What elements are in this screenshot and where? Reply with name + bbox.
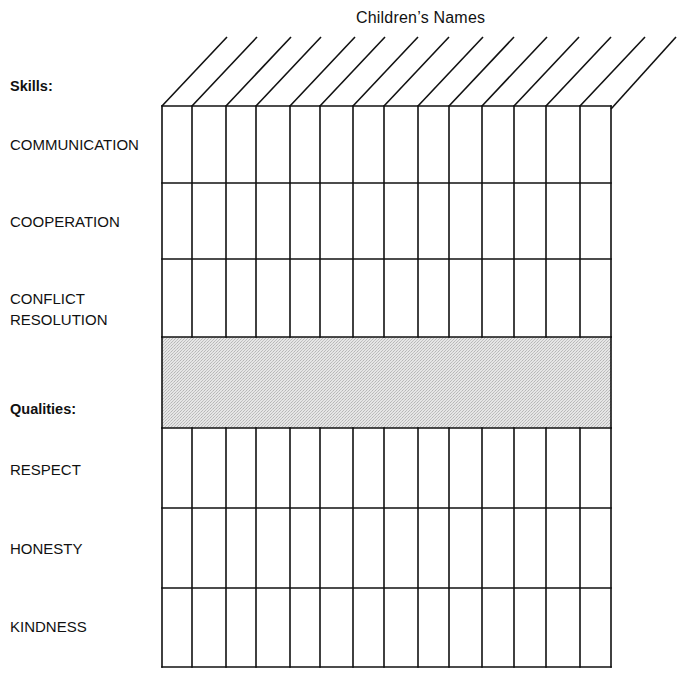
cell-honesty-child-10[interactable] (450, 509, 481, 587)
cell-kindness-child-7[interactable] (354, 589, 383, 666)
cell-communication-child-6[interactable] (321, 107, 352, 182)
cell-conflict-resolution-child-14[interactable] (581, 260, 610, 336)
cell-cooperation-child-1[interactable] (163, 184, 191, 258)
cell-cooperation-child-9[interactable] (419, 184, 448, 258)
cell-cooperation-child-6[interactable] (321, 184, 352, 258)
cell-kindness-child-12[interactable] (515, 589, 545, 666)
cell-cooperation-child-3[interactable] (227, 184, 255, 258)
cell-conflict-resolution-child-12[interactable] (515, 260, 545, 336)
cell-communication-child-11[interactable] (483, 107, 513, 182)
cell-conflict-resolution-child-10[interactable] (450, 260, 481, 336)
cell-kindness-child-2[interactable] (193, 589, 225, 666)
cell-respect-child-7[interactable] (354, 429, 383, 507)
cell-respect-child-5[interactable] (291, 429, 319, 507)
cell-cooperation-child-2[interactable] (193, 184, 225, 258)
cell-kindness-child-3[interactable] (227, 589, 255, 666)
cell-cooperation-child-8[interactable] (385, 184, 417, 258)
cell-honesty-child-12[interactable] (515, 509, 545, 587)
cell-cooperation-child-10[interactable] (450, 184, 481, 258)
cell-communication-child-1[interactable] (163, 107, 191, 182)
cell-respect-child-1[interactable] (163, 429, 191, 507)
cell-conflict-resolution-child-13[interactable] (547, 260, 579, 336)
cell-respect-child-9[interactable] (419, 429, 448, 507)
cell-conflict-resolution-child-11[interactable] (483, 260, 513, 336)
cell-honesty-child-5[interactable] (291, 509, 319, 587)
cell-respect-child-4[interactable] (257, 429, 289, 507)
cell-cooperation-child-13[interactable] (547, 184, 579, 258)
cell-honesty-child-1[interactable] (163, 509, 191, 587)
cell-communication-child-3[interactable] (227, 107, 255, 182)
cell-conflict-resolution-child-4[interactable] (257, 260, 289, 336)
cell-conflict-resolution-child-3[interactable] (227, 260, 255, 336)
cell-honesty-child-7[interactable] (354, 509, 383, 587)
cell-respect-child-14[interactable] (581, 429, 610, 507)
cell-conflict-resolution-child-7[interactable] (354, 260, 383, 336)
cell-conflict-resolution-child-2[interactable] (193, 260, 225, 336)
cell-conflict-resolution-child-8[interactable] (385, 260, 417, 336)
cell-honesty-child-2[interactable] (193, 509, 225, 587)
cell-honesty-child-9[interactable] (419, 509, 448, 587)
cell-kindness-child-8[interactable] (385, 589, 417, 666)
cell-cooperation-child-5[interactable] (291, 184, 319, 258)
cell-honesty-child-8[interactable] (385, 509, 417, 587)
cell-communication-child-12[interactable] (515, 107, 545, 182)
cell-honesty-child-6[interactable] (321, 509, 352, 587)
cell-communication-child-5[interactable] (291, 107, 319, 182)
cell-cooperation-child-4[interactable] (257, 184, 289, 258)
cell-honesty-child-3[interactable] (227, 509, 255, 587)
cell-respect-child-12[interactable] (515, 429, 545, 507)
cell-kindness-child-11[interactable] (483, 589, 513, 666)
cell-honesty-child-11[interactable] (483, 509, 513, 587)
cell-respect-child-10[interactable] (450, 429, 481, 507)
cell-conflict-resolution-child-1[interactable] (163, 260, 191, 336)
cell-kindness-child-6[interactable] (321, 589, 352, 666)
cell-communication-child-7[interactable] (354, 107, 383, 182)
cell-kindness-child-1[interactable] (163, 589, 191, 666)
cell-communication-child-9[interactable] (419, 107, 448, 182)
cell-communication-child-8[interactable] (385, 107, 417, 182)
cell-conflict-resolution-child-6[interactable] (321, 260, 352, 336)
cell-cooperation-child-14[interactable] (581, 184, 610, 258)
cell-conflict-resolution-child-5[interactable] (291, 260, 319, 336)
cell-respect-child-11[interactable] (483, 429, 513, 507)
cell-kindness-child-13[interactable] (547, 589, 579, 666)
separator-band-fill (162, 337, 611, 428)
cell-cooperation-child-7[interactable] (354, 184, 383, 258)
cell-conflict-resolution-child-9[interactable] (419, 260, 448, 336)
cell-respect-child-6[interactable] (321, 429, 352, 507)
cell-cooperation-child-11[interactable] (483, 184, 513, 258)
separator-band (162, 337, 611, 428)
cell-kindness-child-9[interactable] (419, 589, 448, 666)
cell-kindness-child-4[interactable] (257, 589, 289, 666)
cell-respect-child-2[interactable] (193, 429, 225, 507)
cell-respect-child-13[interactable] (547, 429, 579, 507)
checklist-grid (0, 0, 687, 675)
cell-honesty-child-4[interactable] (257, 509, 289, 587)
cell-honesty-child-14[interactable] (581, 509, 610, 587)
cell-communication-child-13[interactable] (547, 107, 579, 182)
cell-communication-child-4[interactable] (257, 107, 289, 182)
cell-respect-child-3[interactable] (227, 429, 255, 507)
cell-communication-child-14[interactable] (581, 107, 610, 182)
cell-kindness-child-14[interactable] (581, 589, 610, 666)
cell-kindness-child-10[interactable] (450, 589, 481, 666)
cell-cooperation-child-12[interactable] (515, 184, 545, 258)
cell-communication-child-2[interactable] (193, 107, 225, 182)
cell-respect-child-8[interactable] (385, 429, 417, 507)
cell-communication-child-10[interactable] (450, 107, 481, 182)
cell-kindness-child-5[interactable] (291, 589, 319, 666)
cell-honesty-child-13[interactable] (547, 509, 579, 587)
